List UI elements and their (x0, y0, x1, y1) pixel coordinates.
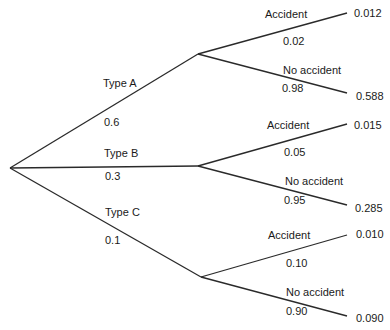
joint-prob-c-no-accident: 0.090 (356, 312, 384, 325)
outcome-prob-c-no-accident: 0.90 (286, 305, 307, 318)
outcome-label-b-no-accident: No accident (285, 175, 343, 188)
outcome-prob-a-accident: 0.02 (283, 35, 304, 48)
outcome-prob-a-no-accident: 0.98 (282, 82, 303, 95)
outcome-label-c-accident: Accident (268, 229, 310, 242)
outcome-prob-c-accident: 0.10 (286, 257, 307, 270)
branch-label-type-b: Type B (104, 147, 138, 160)
outcome-label-b-accident: Accident (267, 119, 309, 132)
joint-prob-b-accident: 0.015 (354, 119, 382, 132)
edge-type-c (10, 168, 201, 277)
outcome-prob-b-accident: 0.05 (284, 146, 305, 159)
branch-label-type-a: Type A (103, 77, 137, 90)
outcome-label-c-no-accident: No accident (286, 286, 344, 299)
branch-prob-type-b: 0.3 (105, 170, 120, 183)
branch-prob-type-c: 0.1 (105, 234, 120, 247)
joint-prob-b-no-accident: 0.285 (355, 202, 383, 215)
joint-prob-c-accident: 0.010 (356, 228, 384, 241)
outcome-prob-b-no-accident: 0.95 (284, 194, 305, 207)
joint-prob-a-no-accident: 0.588 (356, 90, 384, 103)
branch-prob-type-a: 0.6 (104, 116, 119, 129)
outcome-label-a-accident: Accident (265, 8, 307, 21)
outcome-label-a-no-accident: No accident (283, 64, 341, 77)
joint-prob-a-accident: 0.012 (354, 7, 382, 20)
edge-type-b (10, 166, 198, 168)
branch-label-type-c: Type C (105, 206, 140, 219)
tree-lines (0, 0, 390, 330)
